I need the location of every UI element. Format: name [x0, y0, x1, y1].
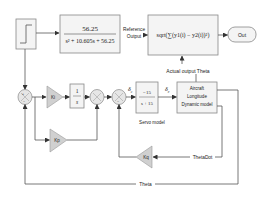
delta-e-label: δe — [165, 86, 170, 94]
kq-gain[interactable]: Kq — [136, 146, 152, 168]
reference-output-label-2: Output — [127, 34, 142, 39]
svg-text:s + 15: s + 15 — [141, 101, 153, 106]
actual-output-label: Actual output Theta — [166, 68, 209, 74]
theta-signal-label: Theta — [139, 182, 152, 187]
svg-text:−15: −15 — [143, 90, 151, 95]
ki-label: Ki — [51, 95, 55, 100]
reference-model-denominator: s² + 10.605s + 56.25 — [65, 38, 114, 44]
ki-gain[interactable]: Ki — [47, 86, 63, 108]
svg-text:+: + — [22, 92, 24, 96]
theta-dot-signal-label: ThetaDot — [193, 155, 213, 160]
rms-error-block[interactable]: sqrt(∑(y1(i) − y2(i))²) — [148, 15, 218, 55]
svg-text:−: − — [23, 100, 25, 104]
svg-text:−: − — [117, 100, 119, 104]
kq-label: Kq — [143, 155, 149, 160]
kp-label: Kp — [54, 138, 60, 143]
aircraft-dynamic-model-block[interactable]: Aircraft Longitude Dynamic model — [177, 82, 217, 113]
delta-c-label: δc — [128, 86, 133, 94]
sum-junction-3[interactable]: − — [112, 90, 126, 105]
sum-junction-1[interactable]: + − — [18, 90, 32, 105]
servo-model-block[interactable]: −15 s + 15 — [136, 82, 158, 113]
svg-text:1: 1 — [76, 88, 79, 94]
kp-gain[interactable]: Kp — [50, 129, 67, 152]
step-input-block[interactable] — [16, 19, 36, 49]
control-block-diagram: 56.25 s² + 10.605s + 56.25 Reference Out… — [0, 0, 264, 198]
sum-junction-2[interactable] — [90, 90, 104, 105]
svg-text:s: s — [76, 99, 78, 105]
svg-text:Longitude: Longitude — [187, 94, 207, 99]
out-terminal[interactable]: Out — [228, 27, 256, 42]
rms-expression: sqrt(∑(y1(i) − y2(i))²) — [157, 32, 210, 39]
svg-text:Dynamic model: Dynamic model — [181, 102, 212, 107]
integrator-block[interactable]: 1 s — [70, 84, 84, 108]
svg-text:Aircraft: Aircraft — [190, 86, 205, 91]
servo-model-caption: Servo model — [139, 120, 165, 125]
reference-output-label-1: Reference — [123, 27, 145, 32]
reference-model-numerator: 56.25 — [82, 25, 98, 33]
out-label: Out — [238, 32, 247, 38]
reference-model-block[interactable]: 56.25 s² + 10.605s + 56.25 — [60, 15, 120, 53]
